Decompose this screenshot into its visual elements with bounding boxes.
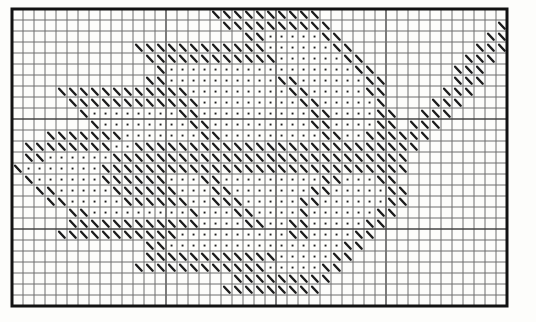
cross-stitch-chart [0, 0, 536, 322]
scanned-pattern-page [0, 0, 536, 322]
page-background [0, 0, 536, 322]
